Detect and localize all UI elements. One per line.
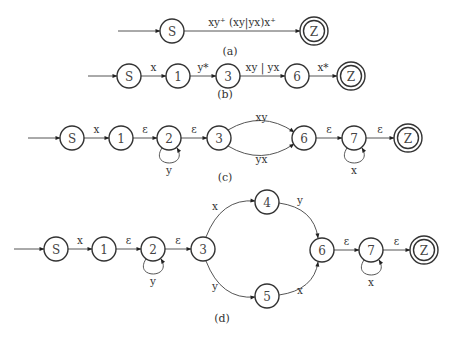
transition-label: ε (326, 123, 331, 135)
state-node: 6 (292, 126, 316, 150)
transition-label: x (94, 123, 100, 135)
final-state-node: Z (394, 124, 422, 152)
state-label: 5 (263, 290, 271, 304)
transition-label: x (351, 164, 357, 176)
state-label: 1 (100, 243, 108, 257)
state-node: 6 (310, 238, 334, 262)
state-node: 6 (285, 64, 309, 88)
state-label: 1 (117, 132, 125, 146)
transition-label: ε (142, 123, 147, 135)
state-label: S (168, 25, 176, 39)
state-node: 1 (109, 126, 133, 150)
transition-label: xy (256, 111, 268, 123)
state-label: 6 (318, 244, 326, 258)
state-label: S (68, 132, 76, 146)
state-label: 7 (367, 244, 375, 258)
transition-label: x (212, 200, 218, 212)
state-label: 3 (224, 70, 232, 84)
state-node: S (160, 19, 184, 43)
state-label: S (52, 243, 60, 257)
subfigure-caption: (a) (222, 45, 237, 58)
subfigure-caption: (c) (218, 171, 233, 184)
state-node: 4 (255, 190, 279, 214)
state-label: 2 (165, 132, 173, 146)
state-node: 2 (157, 126, 181, 150)
final-state-node: Z (300, 17, 328, 45)
automata-diagram: SZS136ZS12367ZS1234567Z xy⁺ (xy|yx)x⁺(a)… (0, 0, 454, 337)
state-node: S (44, 237, 68, 261)
final-state-node: Z (337, 62, 365, 90)
state-node: 3 (207, 126, 231, 150)
transition-label: x (151, 61, 157, 73)
transition-edge (279, 203, 318, 238)
transition-label: y (296, 194, 303, 206)
transition-label: x (297, 284, 303, 296)
state-label: Z (347, 70, 355, 84)
transition-label: y (211, 280, 218, 292)
state-label: 7 (350, 132, 358, 146)
transition-label: y (165, 164, 172, 176)
state-label: Z (420, 244, 428, 258)
state-label: Z (310, 25, 318, 39)
state-label: 3 (199, 243, 207, 257)
state-label: 6 (300, 132, 308, 146)
transition-label: yx (255, 153, 268, 165)
transition-label: x* (317, 61, 329, 73)
transition-label: ε (175, 234, 180, 246)
state-node: 7 (342, 126, 366, 150)
state-node: 7 (359, 238, 383, 262)
subfigure-caption: (d) (214, 312, 230, 325)
transition-label: y* (196, 61, 209, 73)
state-node: 1 (166, 64, 190, 88)
transition-label: ε (126, 234, 131, 246)
transition-label: xy | yx (246, 61, 280, 75)
state-node: 3 (191, 237, 215, 261)
transition-label: ε (394, 235, 399, 247)
state-node: S (117, 64, 141, 88)
transition-label: ε (377, 123, 382, 135)
transition-label: xy⁺ (xy|yx)x⁺ (208, 16, 276, 30)
nfa-construction-figure: SZS136ZS12367ZS1234567Z xy⁺ (xy|yx)x⁺(a)… (0, 0, 454, 337)
transition-label: x (368, 276, 374, 288)
transition-label: ε (191, 123, 196, 135)
transition-label: ε (344, 235, 349, 247)
state-label: 4 (263, 196, 271, 210)
state-label: Z (404, 132, 412, 146)
state-label: 6 (293, 70, 301, 84)
state-node: 5 (255, 284, 279, 308)
state-node: 1 (92, 237, 116, 261)
state-label: S (125, 70, 133, 84)
state-node: 2 (141, 237, 165, 261)
state-label: 1 (174, 70, 182, 84)
transition-label: x (77, 234, 83, 246)
state-node: S (60, 126, 84, 150)
subfigure-caption: (b) (217, 88, 233, 101)
final-state-node: Z (410, 236, 438, 264)
state-label: 2 (149, 243, 157, 257)
transition-label: y (149, 275, 156, 287)
state-label: 3 (215, 132, 223, 146)
state-node: 3 (216, 64, 240, 88)
